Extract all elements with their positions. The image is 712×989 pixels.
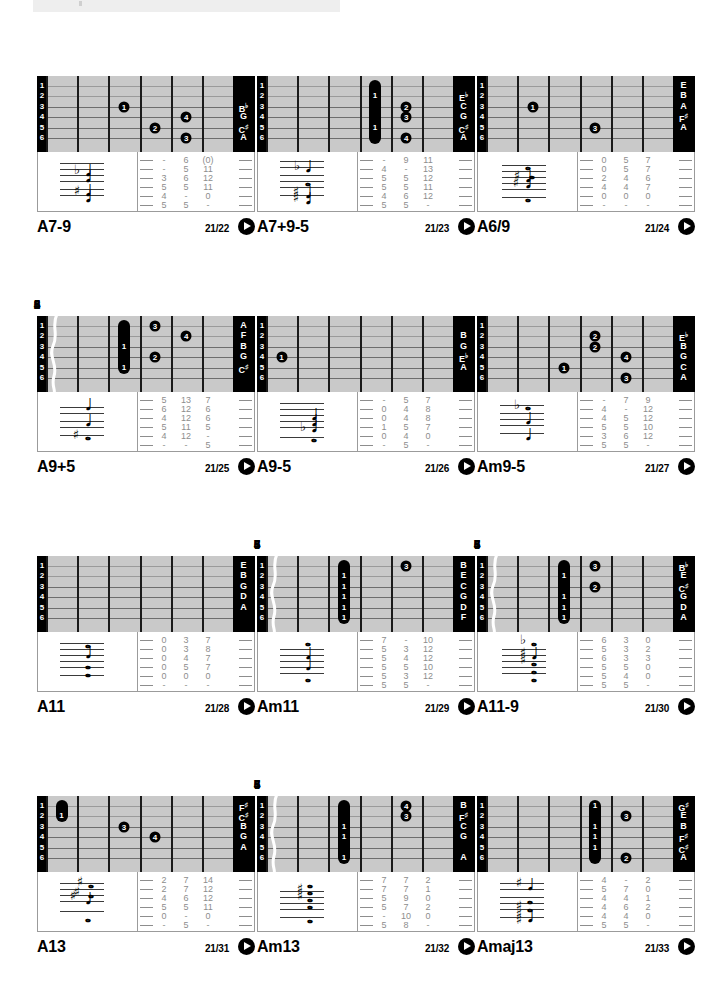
tab-line-right	[239, 640, 252, 641]
play-button[interactable]	[678, 698, 695, 715]
staff-line	[60, 895, 104, 896]
play-button[interactable]	[678, 218, 695, 235]
tab-line-right	[459, 649, 472, 650]
note-name-B: B	[234, 571, 253, 580]
fretboard[interactable]: 123456BF♯CGA11143	[257, 796, 475, 872]
string-number-6: 6	[478, 614, 486, 622]
fret-number-strip	[477, 298, 695, 316]
chord-name: A11	[37, 698, 65, 716]
fretboard[interactable]: 123456EBGDA	[37, 556, 255, 632]
staff-line	[60, 911, 104, 912]
staff-line	[280, 673, 324, 674]
play-button[interactable]	[238, 698, 255, 715]
play-button[interactable]	[678, 458, 695, 475]
note-name-B: B	[454, 801, 473, 810]
tab-cell: -	[419, 441, 437, 450]
fretboard[interactable]: 123456E♭CGC♯A11234	[257, 76, 475, 152]
notation-panel: 𝅘𝅥𝅝𝅝𝅘𝅥♯♯♯♯4-257044146244055-	[477, 872, 695, 932]
play-triangle-icon	[684, 702, 691, 710]
chord-name: Am11	[257, 698, 299, 716]
fretboard[interactable]: 123456E♭BGCA22143	[477, 316, 695, 392]
note-name-E: E	[674, 811, 693, 820]
note-name-E: E	[234, 561, 253, 570]
music-staff: 𝅝𝅝𝅘𝅥𝅘𝅥𝅝♯♯	[478, 152, 577, 210]
tablature-row: 572	[358, 903, 474, 912]
staff-line	[60, 435, 104, 436]
staff-line	[280, 181, 324, 182]
fretboard[interactable]: 123456B♭GC♯A1423	[37, 76, 255, 152]
tab-line-right	[239, 898, 252, 899]
note-name-A: A	[674, 102, 693, 111]
play-button[interactable]	[458, 218, 475, 235]
play-button[interactable]	[678, 938, 695, 955]
barre-finger-label: 1	[589, 802, 601, 810]
fret-number: 6	[34, 298, 41, 312]
fretboard[interactable]: 123456B♭EC♯GDA111132	[477, 556, 695, 632]
note-name-G: G	[674, 592, 693, 601]
staff-line	[502, 197, 546, 198]
page-reference: 21/33	[645, 943, 669, 954]
tab-cell: -	[639, 681, 657, 690]
fret-line-1	[517, 316, 519, 392]
tablature-row: 440	[578, 912, 694, 921]
barre-finger-label: 1	[589, 844, 601, 852]
string-number-2: 2	[258, 92, 266, 100]
music-staff: 𝅘𝅥𝅝𝅝𝅘𝅥♯♯♯♯	[478, 872, 577, 930]
tablature-row: 5511	[138, 183, 254, 192]
tablature-row: 633	[578, 654, 694, 663]
play-button[interactable]	[238, 218, 255, 235]
play-button[interactable]	[458, 698, 475, 715]
barre-fret-4: 11	[369, 80, 381, 144]
fretboard[interactable]: 123456F♯C♯BGA134	[37, 796, 255, 872]
finger-dot-2: 2	[150, 122, 161, 133]
chord-name: A11-9	[477, 698, 519, 716]
fret-line-5	[202, 76, 204, 152]
fret-number: 7	[474, 538, 481, 552]
finger-dot-2: 2	[621, 853, 632, 864]
card-footer: A6/921/24	[477, 216, 695, 242]
barre-finger-label: 1	[338, 614, 350, 622]
tablature-row: 5312	[358, 645, 474, 654]
fret-number-strip	[477, 778, 695, 796]
play-button[interactable]	[238, 458, 255, 475]
play-button[interactable]	[238, 938, 255, 955]
tab-line-left	[360, 658, 373, 659]
fret-number-strip: 34567	[257, 778, 475, 796]
fret-line-5	[422, 796, 424, 872]
string-number-2: 2	[258, 572, 266, 580]
play-button[interactable]	[458, 458, 475, 475]
tab-line-left	[360, 907, 373, 908]
finger-dot-1: 1	[558, 362, 569, 373]
fretboard[interactable]: 123456BECGDF111113	[257, 556, 475, 632]
note-head: 𝅝	[311, 432, 317, 442]
string-number-5: 5	[38, 364, 46, 372]
fretboard[interactable]: 123456EBAF♯A13	[477, 76, 695, 152]
string-number-1: 1	[258, 562, 266, 570]
tab-line-right	[459, 667, 472, 668]
tab-line-left	[140, 418, 153, 419]
chord-card-a7-9: 123456B♭GC♯A1423𝅘𝅥𝅘𝅥𝅘𝅥𝅘𝅥♭♯-6(0)-511361255114…	[37, 58, 255, 242]
fret-number: 7	[254, 538, 261, 552]
fretboard-cut-marker	[488, 554, 502, 634]
note-head: 𝅘𝅥	[528, 912, 533, 922]
tab-line-left	[580, 889, 593, 890]
tab-line-right	[459, 658, 472, 659]
tab-line-right	[459, 685, 472, 686]
tab-cell: 5	[397, 441, 415, 450]
fretboard[interactable]: 123456BGE♭A1	[257, 316, 475, 392]
tab-line-right	[239, 658, 252, 659]
tab-line-right	[459, 676, 472, 677]
fretboard[interactable]: 123456G♯EBF♯C♯A111132	[477, 796, 695, 872]
play-button[interactable]	[458, 938, 475, 955]
note-head: 𝅝	[525, 400, 531, 410]
fretboard[interactable]: 123456AFBGC♯11342	[37, 316, 255, 392]
fret-line-3	[140, 316, 142, 392]
finger-dot-3: 3	[118, 821, 129, 832]
tablature-row: 0-0	[138, 912, 254, 921]
note-name-A: A	[454, 133, 473, 142]
tab-line-right	[459, 169, 472, 170]
finger-dot-2: 2	[150, 352, 161, 363]
note-name-B: B	[234, 822, 253, 831]
tablature-row: ---	[578, 201, 694, 210]
barre-finger-label: 1	[118, 364, 130, 372]
